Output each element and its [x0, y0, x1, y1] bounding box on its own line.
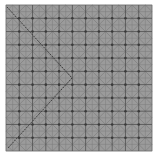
mesh-grid-graphic — [0, 0, 158, 156]
mesh-diagram — [0, 0, 158, 156]
